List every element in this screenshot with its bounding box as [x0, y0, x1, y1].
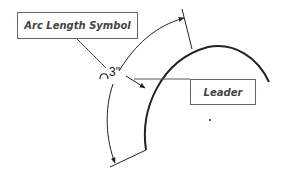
extension-line-bottom: [110, 150, 146, 167]
leader-callout: Leader: [190, 79, 256, 105]
dimension-arc-lower: [107, 84, 115, 163]
arc-length-symbol-label: Arc Length Symbol: [24, 20, 131, 31]
extension-line-top: [182, 9, 192, 49]
leader-label: Leader: [204, 87, 243, 98]
arc-symbol-callout-line: [77, 39, 106, 68]
arc-length-symbol-icon: [100, 74, 108, 79]
arc-length-symbol-callout: Arc Length Symbol: [17, 12, 138, 39]
center-point: [209, 119, 211, 121]
dimension-value: 3": [109, 65, 120, 79]
leader-line: [126, 76, 145, 88]
